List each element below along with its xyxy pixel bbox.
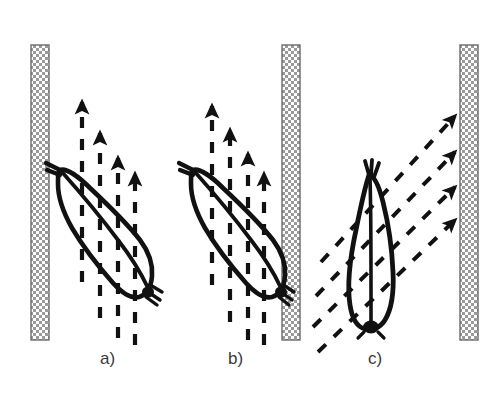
cell-head-tip (365, 160, 379, 177)
cell-axial-filament (370, 178, 371, 323)
panel-a-spermatozoon (46, 163, 162, 305)
figure-container: a) b) c) (0, 0, 500, 405)
panel-c-flow-arrows (313, 116, 455, 352)
panel-label-c: c) (368, 349, 382, 369)
left-wall (31, 45, 49, 340)
right-wall (460, 45, 478, 340)
cell-head-tip (179, 163, 193, 175)
diagram-canvas (0, 0, 500, 405)
panel-label-a: a) (100, 349, 115, 369)
panel-label-b: b) (228, 349, 243, 369)
cell-body-outline (191, 170, 285, 298)
flow-arrow (318, 220, 455, 352)
cell-body-outline (58, 170, 152, 298)
cell-tail-node (142, 287, 154, 298)
panel-c-spermatozoon (349, 160, 393, 338)
panel-b-spermatozoon (179, 163, 294, 305)
cell-tail-node (275, 287, 287, 298)
